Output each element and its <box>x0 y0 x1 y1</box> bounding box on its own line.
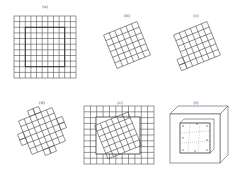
panel-a-grid <box>14 16 76 78</box>
panel-a-inner-square <box>25 27 64 66</box>
panel-d-cross-grid <box>11 100 73 162</box>
panel-b-rotated-grid <box>104 22 151 69</box>
figure-canvas <box>0 0 233 169</box>
panel-c-stepped-grid <box>168 22 220 71</box>
panel-f-box <box>170 106 228 163</box>
